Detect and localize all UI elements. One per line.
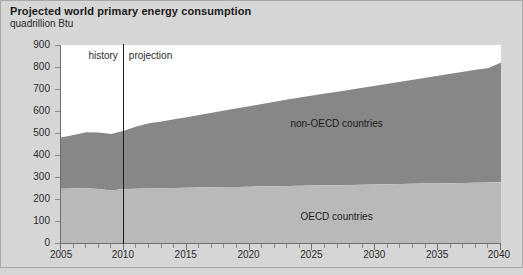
y-tick-mark: [55, 177, 60, 178]
y-tick-label: 200: [6, 194, 50, 204]
x-tick-minor: [299, 244, 300, 248]
x-tick-minor: [475, 244, 476, 248]
x-tick-minor: [236, 244, 237, 248]
x-tick-label: 2005: [50, 249, 72, 260]
x-tick-minor: [161, 244, 162, 248]
x-tick-minor: [425, 244, 426, 248]
plot-area: [60, 45, 501, 243]
y-tick-label: 900: [6, 40, 50, 50]
y-tick-label: 300: [6, 172, 50, 182]
x-tick-minor: [173, 244, 174, 248]
x-tick-label: 2015: [175, 249, 197, 260]
x-tick-minor: [110, 244, 111, 248]
x-tick-minor: [387, 244, 388, 248]
x-tick-minor: [223, 244, 224, 248]
x-tick-label: 2020: [237, 249, 259, 260]
y-tick-mark: [55, 133, 60, 134]
x-tick-minor: [98, 244, 99, 248]
y-tick-label: 0: [6, 238, 50, 248]
chart-title: Projected world primary energy consumpti…: [10, 5, 251, 17]
area-oecd-countries: [61, 182, 501, 243]
x-tick-minor: [487, 244, 488, 248]
x-tick-minor: [261, 244, 262, 248]
x-tick-minor: [362, 244, 363, 248]
x-tick-minor: [349, 244, 350, 248]
y-tick-mark: [55, 89, 60, 90]
x-tick-label: 2010: [112, 249, 134, 260]
y-tick-mark: [55, 199, 60, 200]
chart-screenshot: Projected world primary energy consumpti…: [0, 0, 523, 275]
x-tick-minor: [450, 244, 451, 248]
x-tick-minor: [73, 244, 74, 248]
x-tick-minor: [148, 244, 149, 248]
x-tick-minor: [337, 244, 338, 248]
y-tick-label: 100: [6, 216, 50, 226]
x-tick-minor: [324, 244, 325, 248]
x-tick-minor: [85, 244, 86, 248]
y-tick-label: 700: [6, 84, 50, 94]
x-tick-minor: [462, 244, 463, 248]
x-tick-minor: [412, 244, 413, 248]
projection-label: projection: [129, 50, 172, 61]
y-tick-mark: [55, 221, 60, 222]
y-tick-mark: [55, 155, 60, 156]
series-label-oecd: OECD countries: [300, 210, 372, 221]
x-tick-minor: [198, 244, 199, 248]
x-tick-minor: [135, 244, 136, 248]
y-tick-label: 500: [6, 128, 50, 138]
y-tick-mark: [55, 45, 60, 46]
y-tick-label: 600: [6, 106, 50, 116]
chart-subtitle: quadrillion Btu: [10, 18, 73, 29]
y-tick-mark: [55, 67, 60, 68]
y-tick-label: 400: [6, 150, 50, 160]
x-tick-label: 2030: [363, 249, 385, 260]
y-tick-label: 800: [6, 62, 50, 72]
x-tick-label: 2040: [488, 249, 510, 260]
x-tick-minor: [274, 244, 275, 248]
history-label: history: [88, 50, 117, 61]
x-tick-label: 2035: [426, 249, 448, 260]
x-tick-label: 2025: [300, 249, 322, 260]
x-tick-minor: [286, 244, 287, 248]
series-label-non-oecd: non-OECD countries: [290, 118, 382, 129]
x-tick-minor: [211, 244, 212, 248]
stacked-area-series: [61, 45, 501, 243]
x-tick-minor: [399, 244, 400, 248]
y-tick-mark: [55, 111, 60, 112]
history-projection-divider: [123, 44, 124, 244]
area-non-oecd-countries: [61, 63, 501, 191]
x-axis-line: [59, 243, 501, 244]
